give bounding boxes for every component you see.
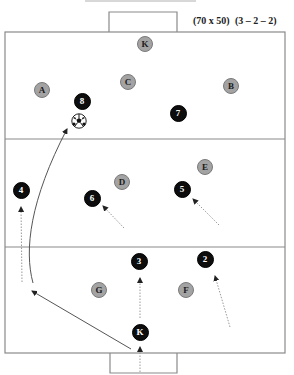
field-dimensions-label: (70 x 50) xyxy=(193,15,230,26)
soccer-pitch-diagram xyxy=(0,0,294,375)
player-label: 8 xyxy=(80,96,85,106)
player-label: K xyxy=(136,327,143,337)
formation-label: (3 – 2 – 2) xyxy=(235,15,277,26)
player-label: D xyxy=(119,177,126,187)
run-arrow-to-6 xyxy=(103,206,124,228)
player-label: E xyxy=(202,162,208,172)
bottom-goal xyxy=(110,353,177,373)
player-label: 2 xyxy=(203,254,208,264)
defender-a[interactable]: A xyxy=(34,82,50,98)
attacker-6[interactable]: 6 xyxy=(84,190,101,207)
field-lines xyxy=(5,1,285,373)
player-label: B xyxy=(228,81,234,91)
player-label: G xyxy=(95,285,102,295)
run-arrow-to-4 xyxy=(21,207,22,282)
attacker-k[interactable]: K xyxy=(132,324,149,341)
field-boundary xyxy=(5,32,285,353)
player-label: C xyxy=(125,77,132,87)
attacker-4[interactable]: 4 xyxy=(13,182,30,199)
player-label: 3 xyxy=(137,256,142,266)
player-label: A xyxy=(39,85,46,95)
defender-d[interactable]: D xyxy=(114,174,130,190)
player-label: 6 xyxy=(90,193,95,203)
attacker-8[interactable]: 8 xyxy=(74,93,91,110)
defender-e[interactable]: E xyxy=(197,159,213,175)
player-label: 7 xyxy=(176,108,181,118)
defender-c[interactable]: C xyxy=(120,74,136,90)
attacker-5[interactable]: 5 xyxy=(174,181,191,198)
attacker-3[interactable]: 3 xyxy=(131,253,148,270)
attacker-2[interactable]: 2 xyxy=(197,251,214,268)
player-label: F xyxy=(183,285,189,295)
defender-k[interactable]: K xyxy=(137,36,153,52)
defender-f[interactable]: F xyxy=(178,282,194,298)
player-label: K xyxy=(141,39,148,49)
pass-lines xyxy=(29,129,131,349)
run-arrow-to-5 xyxy=(193,199,219,225)
run-arrow-to-2 xyxy=(215,276,230,327)
top-goal xyxy=(109,12,177,32)
attacker-7[interactable]: 7 xyxy=(170,105,187,122)
defender-g[interactable]: G xyxy=(91,282,107,298)
player-label: 4 xyxy=(19,185,24,195)
player-label: 5 xyxy=(180,184,185,194)
curved-pass-arrow xyxy=(29,129,67,283)
pass-arrow-1 xyxy=(32,291,131,349)
soccer-ball-icon[interactable] xyxy=(71,113,87,129)
defender-b[interactable]: B xyxy=(223,78,239,94)
